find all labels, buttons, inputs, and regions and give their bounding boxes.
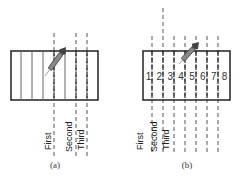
cell-number: 7 (211, 71, 217, 82)
panel-b: 12345678FirstSecondThird(b) (135, 8, 230, 170)
cell-number: 4 (178, 71, 184, 82)
cell-number: 6 (200, 71, 206, 82)
cell-number: 8 (222, 71, 228, 82)
line-label-third: Third (161, 129, 171, 150)
cell-number: 1 (146, 71, 152, 82)
line-label-first: First (135, 132, 145, 150)
dart-stripe-diagram: FirstSecondThird(a) 12345678FirstSecondT… (0, 0, 244, 180)
subfigure-caption: (b) (182, 160, 193, 170)
line-label-first: First (43, 132, 53, 150)
line-label-third: Third (76, 129, 86, 150)
line-label-second: Second (149, 121, 159, 152)
subfigure-caption: (a) (50, 160, 60, 170)
cell-number: 3 (167, 71, 173, 82)
dart-icon (176, 39, 202, 66)
panel-a: FirstSecondThird(a) (11, 33, 98, 170)
cell-number: 2 (157, 71, 163, 82)
cell-number: 5 (189, 71, 195, 82)
line-label-second: Second (64, 121, 74, 152)
